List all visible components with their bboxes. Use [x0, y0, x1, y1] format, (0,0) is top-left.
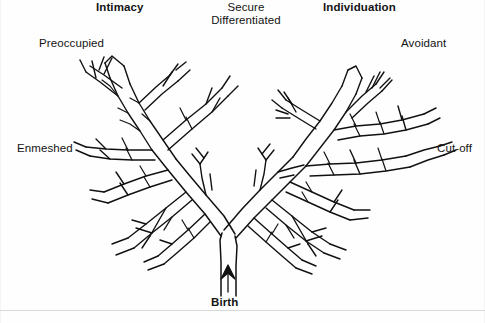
- main-fork: [152, 150, 306, 238]
- label-secure-differentiated: Secure Differentiated: [200, 1, 292, 27]
- label-secure-line2: Differentiated: [200, 14, 292, 27]
- diagram-canvas: Intimacy Secure Differentiated Individua…: [0, 0, 485, 323]
- label-cutoff: Cut-off: [437, 142, 472, 155]
- label-intimacy: Intimacy: [96, 1, 143, 14]
- label-preoccupied: Preoccupied: [39, 37, 104, 50]
- label-individuation: Individuation: [323, 1, 396, 14]
- left-limb-branches: [74, 56, 238, 270]
- birth-arrow: [221, 265, 235, 292]
- label-secure-line1: Secure: [200, 1, 292, 14]
- label-birth: Birth: [211, 296, 238, 309]
- label-avoidant: Avoidant: [401, 37, 446, 50]
- bottom-rule: [0, 310, 485, 311]
- label-enmeshed: Enmeshed: [17, 142, 73, 155]
